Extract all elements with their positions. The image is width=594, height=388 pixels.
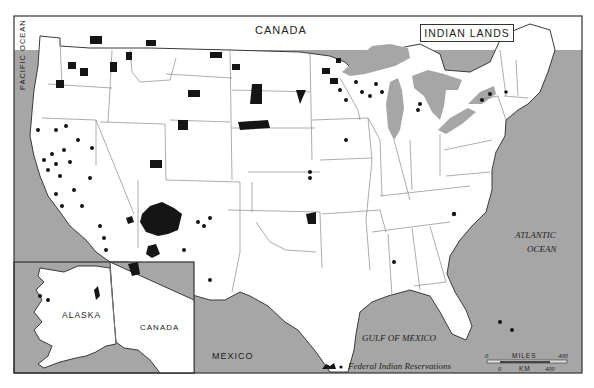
label-mexico: MEXICO: [212, 351, 254, 361]
reservation-dot-icon: [339, 365, 342, 368]
scale-km-label: KM: [519, 365, 531, 372]
label-pacific-ocean: PACIFIC OCEAN: [18, 19, 27, 90]
label-atlantic-ocean-1: ATLANTIC: [514, 230, 557, 240]
scale-miles-end: 400: [558, 352, 569, 359]
legend-label: Federal Indian Reservations: [347, 361, 451, 371]
label-atlantic-ocean-2: OCEAN: [527, 244, 557, 254]
scale-km-end: 400: [545, 365, 556, 372]
label-alaska: ALASKA: [62, 310, 101, 320]
label-canada-top: CANADA: [255, 24, 307, 36]
map-title: INDIAN LANDS: [420, 24, 514, 42]
label-canada-inset: CANADA: [140, 323, 179, 332]
indian-lands-map: CANADA PACIFIC OCEAN ATLANTIC OCEAN GULF…: [0, 0, 594, 388]
label-gulf-of-mexico: GULF OF MEXICO: [362, 333, 436, 343]
scale-miles-label: MILES: [512, 352, 537, 359]
